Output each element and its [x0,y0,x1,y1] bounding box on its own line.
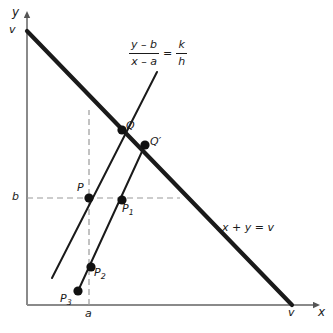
point-label-Q-prime: Q′ [150,136,161,147]
point-label-P3: P3 [60,293,72,306]
point-label-P2-subscript: 2 [101,272,106,281]
point-label-P: P [77,182,84,193]
slope-equation-lhs-fraction: y – b x – a [129,38,159,69]
point-label-P1-subscript: 1 [129,208,134,217]
point-label-Q-prime-mark: ′ [159,135,162,148]
y-intercept-tick-label: v [9,24,16,35]
point-label-P1-base: P [122,202,129,215]
point-label-Q-prime-base: Q [150,135,159,148]
budget-line-x-plus-y-equals-v [27,31,292,305]
point-label-P3-subscript: 3 [67,298,72,307]
point-Q-prime [140,140,149,149]
geometry-figure: y x v v b a x + y = v y – b x – a = k h … [0,0,333,333]
slope-equation-rhs-denominator: h [176,55,187,69]
y-dashed-tick-label-b: b [12,191,19,202]
point-label-P2: P2 [94,267,106,280]
point-label-P3-base: P [60,292,67,305]
x-axis-label: x [318,306,325,318]
marked-points-group [73,125,149,295]
budget-line-equation-label: x + y = v [222,222,274,233]
x-dashed-tick-label-a: a [85,308,92,319]
ray-through-P [52,72,157,278]
slope-equation-rhs-numerator: k [177,38,187,52]
point-label-P1: P1 [122,203,134,216]
y-axis-label: y [12,6,19,18]
point-P [84,193,93,202]
x-intercept-tick-label: v [288,307,295,318]
slope-equation-lhs-denominator: x – a [129,55,159,69]
slope-equation-lhs-fraction-bar [129,53,159,54]
point-label-P-base: P [77,181,84,194]
point-label-Q: Q [126,120,135,131]
slope-equation-rhs-fraction-bar [176,53,187,54]
slope-equation-label: y – b x – a = k h [129,38,187,69]
point-P3 [73,286,82,295]
slope-equation-rhs-fraction: k h [176,38,187,69]
point-label-Q-base: Q [126,119,135,132]
slope-equation-equals-sign: = [163,48,172,59]
point-label-P2-base: P [94,266,101,279]
slope-equation-lhs-numerator: y – b [129,38,159,52]
